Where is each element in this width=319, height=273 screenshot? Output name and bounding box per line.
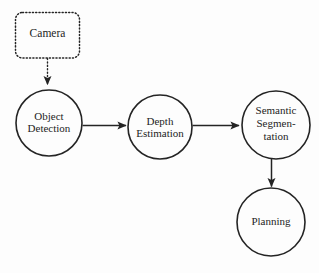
node-camera-shape[interactable] <box>16 13 80 59</box>
node-object-detection-shape[interactable] <box>16 90 82 156</box>
node-planning-shape[interactable] <box>237 188 305 256</box>
diagram-canvas <box>0 0 319 273</box>
node-depth-estimation-shape[interactable] <box>128 95 192 159</box>
node-semantic-segmentation-shape[interactable] <box>242 91 310 159</box>
pipeline-diagram: Camera Object Detection Depth Estimation… <box>0 0 319 273</box>
